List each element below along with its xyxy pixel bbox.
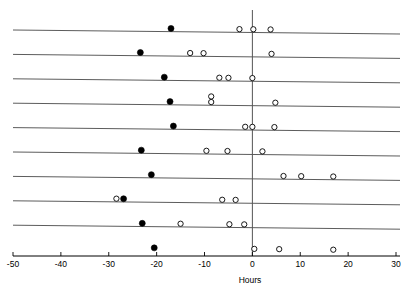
marker-open	[268, 27, 273, 32]
row-baseline	[13, 176, 400, 180]
x-axis-tick-label: 20	[343, 259, 353, 269]
marker-open	[225, 148, 230, 153]
data-markers	[114, 25, 336, 252]
marker-open	[269, 51, 274, 56]
marker-open	[242, 222, 247, 227]
x-axis-tick-label: 0	[250, 259, 255, 269]
x-axis-tick-label: -50	[7, 259, 20, 269]
marker-open	[227, 222, 232, 227]
marker-open	[237, 26, 242, 31]
marker-open	[250, 75, 255, 80]
marker-filled	[121, 196, 127, 202]
marker-filled	[170, 123, 176, 129]
marker-open	[252, 246, 257, 251]
marker-filled	[161, 74, 167, 80]
marker-open	[178, 221, 183, 226]
marker-open	[233, 197, 238, 202]
row-baseline	[13, 128, 400, 132]
marker-open	[277, 247, 282, 252]
marker-filled	[137, 50, 143, 56]
marker-filled	[148, 172, 154, 178]
marker-open	[272, 124, 277, 129]
marker-open	[220, 197, 225, 202]
row-baseline	[13, 225, 400, 229]
x-axis-ticks	[13, 252, 396, 256]
x-axis-tick-label: -30	[103, 259, 116, 269]
x-axis-tick-label: 30	[391, 259, 401, 269]
marker-open	[299, 174, 304, 179]
marker-open	[251, 27, 256, 32]
row-baselines	[13, 30, 400, 229]
x-axis-tick-label: -10	[198, 259, 211, 269]
marker-filled	[138, 147, 144, 153]
x-axis-tick-label: -40	[55, 259, 68, 269]
row-baseline	[13, 30, 400, 34]
row-baseline	[13, 79, 400, 83]
marker-open	[226, 75, 231, 80]
marker-open	[281, 173, 286, 178]
marker-open	[209, 99, 214, 104]
marker-open	[217, 75, 222, 80]
marker-open	[331, 247, 336, 252]
marker-filled	[167, 99, 173, 105]
x-axis: -50-40-30-20-100102030	[7, 252, 401, 269]
x-axis-tick-label: 10	[296, 259, 306, 269]
scatter-chart: -50-40-30-20-100102030 Hours	[0, 0, 412, 288]
x-axis-tick-labels: -50-40-30-20-100102030	[7, 259, 401, 269]
marker-open	[209, 94, 214, 99]
marker-open	[273, 100, 278, 105]
row-baseline	[13, 103, 400, 107]
marker-filled	[139, 220, 145, 226]
row-baseline	[13, 54, 400, 58]
marker-open	[243, 124, 248, 129]
marker-open	[187, 50, 192, 55]
marker-open	[331, 174, 336, 179]
chart-canvas: -50-40-30-20-100102030 Hours	[0, 0, 412, 288]
marker-open	[204, 148, 209, 153]
marker-open	[201, 51, 206, 56]
marker-filled	[168, 25, 174, 31]
marker-filled	[151, 245, 157, 251]
x-axis-title: Hours	[239, 275, 262, 285]
x-axis-tick-label: -20	[150, 259, 163, 269]
marker-open	[260, 149, 265, 154]
marker-open	[114, 196, 119, 201]
marker-open	[250, 124, 255, 129]
row-baseline	[13, 201, 400, 205]
